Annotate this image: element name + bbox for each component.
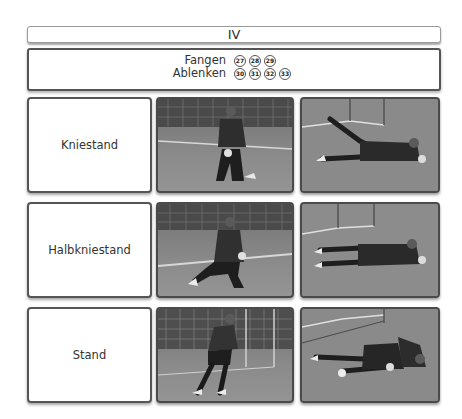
legend-box: Fangen Ablenken 27 28 29 30 31 32 33 <box>27 48 441 91</box>
goalkeeper-photo-icon <box>158 99 292 191</box>
fangen-numbers: 27 28 29 <box>234 55 439 67</box>
number-badge: 29 <box>264 55 276 67</box>
photo-diving-save <box>300 97 440 193</box>
legend-labels: Fangen Ablenken <box>29 54 234 80</box>
row-stand: Stand <box>27 307 442 403</box>
number-badge: 33 <box>279 68 291 80</box>
number-badge: 28 <box>249 55 261 67</box>
legend-label-ablenken: Ablenken <box>29 67 226 80</box>
number-badge: 32 <box>264 68 276 80</box>
photo-ground-save <box>300 307 440 403</box>
label-card-kniestand: Kniestand <box>27 97 152 193</box>
photo-half-kneeling <box>156 202 294 298</box>
row-label: Kniestand <box>61 138 118 152</box>
number-badge: 30 <box>234 68 246 80</box>
goalkeeper-photo-icon <box>302 99 438 191</box>
label-card-halbkniestand: Halbkniestand <box>27 202 152 298</box>
photo-standing-ready <box>156 307 294 403</box>
goalkeeper-photo-icon <box>302 204 438 296</box>
ablenken-numbers: 30 31 32 33 <box>234 68 439 80</box>
row-label: Halbkniestand <box>48 243 131 257</box>
row-label: Stand <box>73 348 106 362</box>
goalkeeper-photo-icon <box>158 204 292 296</box>
row-kniestand: Kniestand <box>27 97 442 193</box>
number-badge: 27 <box>234 55 246 67</box>
legend-numbers: 27 28 29 30 31 32 33 <box>234 54 439 80</box>
photo-kneeling-catch <box>156 97 294 193</box>
label-card-stand: Stand <box>27 307 152 403</box>
row-halbkniestand: Halbkniestand <box>27 202 442 298</box>
goalkeeper-photo-icon <box>158 309 292 401</box>
section-title: IV <box>27 26 441 43</box>
photo-lying-save <box>300 202 440 298</box>
number-badge: 31 <box>249 68 261 80</box>
goalkeeper-photo-icon <box>302 309 438 401</box>
